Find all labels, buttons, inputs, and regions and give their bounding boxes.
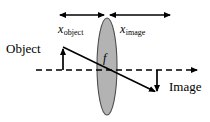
label-x-image: ximage [120,23,145,37]
label-image: Image [169,80,201,93]
label-object: Object [6,42,41,55]
label-x-object-subscript: object [63,28,83,37]
optics-diagram: xobject ximage Object Image f [0,0,210,122]
label-x-object: xobject [58,23,83,37]
label-x-image-subscript: image [125,28,145,37]
label-focal-length: f [103,52,106,64]
converging-lens [97,18,117,115]
